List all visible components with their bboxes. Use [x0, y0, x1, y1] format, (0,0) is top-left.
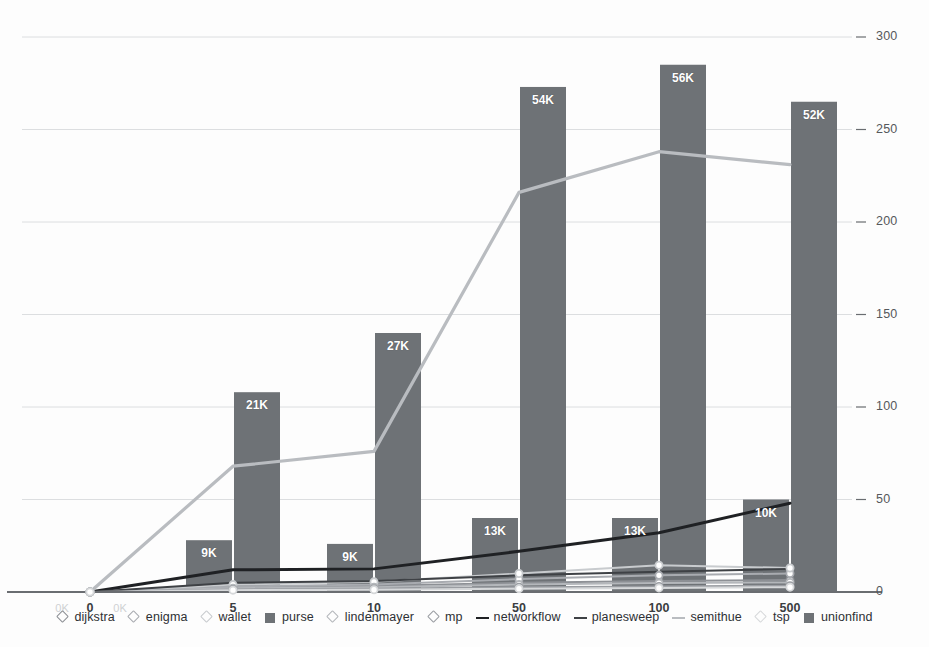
gridlines-group — [22, 37, 852, 500]
legend-diamond-icon — [327, 611, 340, 624]
legend-item-enigma[interactable]: enigma — [128, 610, 188, 624]
legend-item-label: purse — [282, 610, 314, 624]
legend-diamond-icon — [128, 611, 141, 624]
y-tick-label: 50 — [876, 492, 890, 506]
bars-group — [186, 65, 837, 592]
bar-value-label: 10K — [755, 506, 777, 520]
bar-unionfind — [791, 102, 837, 592]
y-tick-label: 250 — [876, 122, 897, 136]
marker-enigma — [655, 572, 662, 579]
legend-item-label: semithue — [690, 610, 742, 624]
chart-plot-area — [0, 0, 929, 647]
legend-square-icon — [803, 611, 816, 624]
bar-value-label: 52K — [803, 108, 825, 122]
legend-item-lindenmayer[interactable]: lindenmayer — [327, 610, 414, 624]
bar-value-label: 9K — [201, 546, 216, 560]
legend-item-label: networkflow — [494, 610, 561, 624]
legend-item-label: wallet — [218, 610, 251, 624]
legend-item-planesweep[interactable]: planesweep — [574, 610, 660, 624]
bar-value-label: 13K — [484, 524, 506, 538]
marker-wallet — [515, 570, 522, 577]
legend-line-icon — [672, 611, 685, 624]
legend-diamond-icon — [755, 611, 768, 624]
chart-legend: dijkstraenigmawalletpurselindenmayermpne… — [0, 610, 929, 624]
bar-unionfind — [375, 333, 421, 592]
legend-item-dijkstra[interactable]: dijkstra — [56, 610, 114, 624]
bar-value-label: 9K — [342, 550, 357, 564]
legend-item-purse[interactable]: purse — [264, 610, 314, 624]
marker-tsp — [86, 588, 93, 595]
legend-diamond-icon — [56, 611, 69, 624]
legend-diamond-icon — [200, 611, 213, 624]
legend-item-unionfind[interactable]: unionfind — [803, 610, 873, 624]
marker-tsp — [655, 584, 662, 591]
bar-value-label: 54K — [532, 93, 554, 107]
legend-item-networkflow[interactable]: networkflow — [476, 610, 561, 624]
y-tick-label: 200 — [876, 214, 897, 228]
legend-item-label: dijkstra — [74, 610, 114, 624]
bar-unionfind — [520, 87, 566, 592]
y-tick-label: 150 — [876, 307, 897, 321]
marker-wallet — [786, 564, 793, 571]
legend-diamond-icon — [427, 611, 440, 624]
bar-value-label: 13K — [624, 524, 646, 538]
legend-item-label: unionfind — [821, 610, 873, 624]
y-tick-label: 100 — [876, 399, 897, 413]
bar-unionfind — [234, 392, 280, 592]
legend-item-mp[interactable]: mp — [427, 610, 463, 624]
bar-value-label: 21K — [246, 398, 268, 412]
marker-tsp — [229, 587, 236, 594]
legend-line-icon — [476, 611, 489, 624]
legend-item-label: planesweep — [592, 610, 660, 624]
legend-square-icon — [264, 611, 277, 624]
chart-container: 050100150200250300 0510501005000K0K 9K9K… — [0, 0, 929, 647]
legend-item-label: lindenmayer — [345, 610, 414, 624]
marker-tsp — [370, 586, 377, 593]
y-tick-label: 0 — [876, 584, 883, 598]
legend-item-wallet[interactable]: wallet — [200, 610, 251, 624]
legend-item-tsp[interactable]: tsp — [755, 610, 790, 624]
y-tick-label: 300 — [876, 29, 897, 43]
bar-value-label: 56K — [672, 71, 694, 85]
bar-unionfind — [660, 65, 706, 592]
bar-value-label: 27K — [387, 339, 409, 353]
marker-tsp — [786, 584, 793, 591]
legend-item-label: mp — [445, 610, 463, 624]
marker-wallet — [655, 562, 662, 569]
legend-line-icon — [574, 611, 587, 624]
legend-item-label: enigma — [146, 610, 188, 624]
marker-tsp — [515, 585, 522, 592]
legend-item-semithue[interactable]: semithue — [672, 610, 742, 624]
legend-item-label: tsp — [773, 610, 790, 624]
